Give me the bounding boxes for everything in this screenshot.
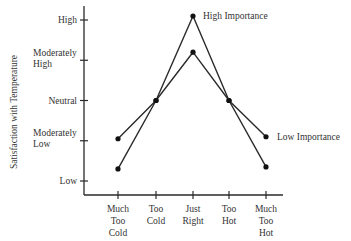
annotation-low-importance: Low Importance: [277, 132, 340, 142]
x-tick-label: Cold: [147, 216, 166, 226]
y-tick-label: High: [58, 15, 77, 25]
data-point: [115, 136, 120, 141]
x-tick-label: Right: [182, 216, 203, 226]
data-point: [153, 98, 158, 103]
x-tick-label: Hot: [259, 228, 274, 238]
x-tick-label: Too: [111, 216, 126, 226]
y-tick-label: Neutral: [49, 96, 78, 106]
x-tick-label: Too: [222, 204, 237, 214]
y-tick-label: Low: [33, 139, 51, 149]
x-tick-label: Much: [255, 204, 277, 214]
line-chart: LowModeratelyLowNeutralModeratelyHighHig…: [0, 0, 351, 241]
data-point: [263, 134, 268, 139]
x-tick-label: Too: [259, 216, 274, 226]
y-tick-label: High: [33, 59, 52, 69]
data-point: [115, 166, 120, 171]
x-tick-label: Hot: [222, 216, 237, 226]
x-tick-label: Just: [186, 204, 201, 214]
series-line: [118, 16, 266, 169]
x-tick-label: Cold: [109, 228, 128, 238]
y-axis-title: Satisfaction with Temperature: [9, 55, 19, 169]
data-point: [263, 164, 268, 169]
data-point: [226, 98, 231, 103]
annotation-high-importance: High Importance: [203, 11, 268, 21]
x-tick-label: Too: [149, 204, 164, 214]
y-tick-label: Low: [60, 176, 78, 186]
y-tick-label: Moderately: [33, 48, 77, 58]
x-tick-label: Much: [107, 204, 129, 214]
data-point: [190, 50, 195, 55]
y-tick-label: Moderately: [33, 128, 77, 138]
data-point: [190, 13, 195, 18]
